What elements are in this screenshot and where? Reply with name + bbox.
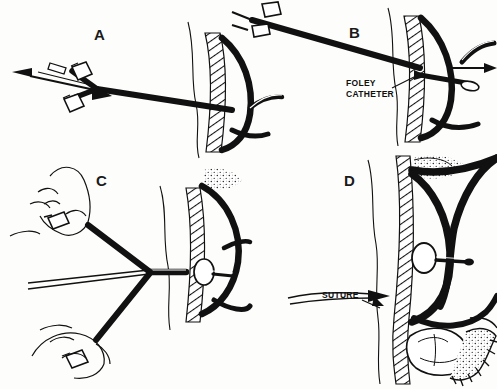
balloon-tube-c [213, 274, 233, 276]
balloon-tube-cap-d [464, 259, 474, 266]
balloon-d [412, 243, 436, 273]
suture-label: SUTURE [322, 290, 359, 301]
panel-letter-d: D [344, 172, 355, 189]
panel-letter-c: C [96, 172, 107, 189]
medical-illustration-figure [0, 0, 497, 389]
panel-letter-a: A [94, 26, 105, 43]
catheter-port-upper-b [262, 2, 281, 17]
balloon-tube-d [436, 260, 468, 262]
panel-letter-b: B [349, 24, 360, 41]
balloon-c [194, 259, 214, 285]
foley-catheter-label: FOLEY CATHETER [346, 78, 394, 99]
catheter-port-lower-b [252, 24, 270, 37]
